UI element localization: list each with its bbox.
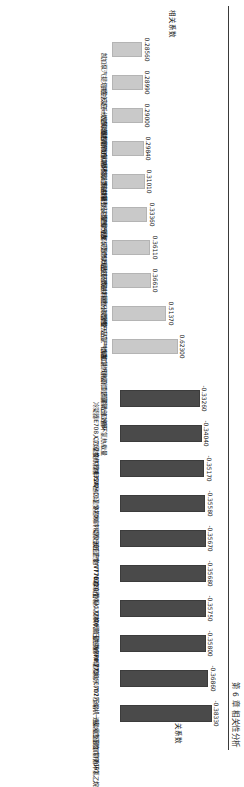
bar-value-label: -0.36860 — [210, 665, 217, 691]
bar — [112, 273, 151, 288]
bar-group: -0.35680 — [120, 565, 224, 582]
bar-value-label: -0.35750 — [207, 595, 214, 621]
bar — [112, 207, 147, 222]
header-title: 第 6 章 相关性分析 — [231, 682, 242, 748]
bar-value-label: -0.35670 — [207, 525, 214, 551]
bar-group: -0.35800 — [120, 635, 224, 652]
bar — [112, 174, 145, 189]
bar-value-label: 0.29000 — [144, 103, 151, 127]
bar — [112, 141, 144, 156]
bar — [112, 240, 150, 255]
negative-correlation-chart: 相关系数 -0.33260冷凝器E708入口温度(TT7031A)-0.3404… — [0, 376, 224, 756]
bar-group: 0.62300 — [112, 339, 224, 354]
bar-value-label: 0.36610 — [152, 268, 159, 292]
bar-group: -0.34040 — [120, 425, 224, 442]
chart-1-plot-area: -0.33260冷凝器E708入口温度(TT7031A)-0.34040C702… — [0, 376, 224, 756]
bar — [112, 42, 142, 57]
bar — [120, 705, 212, 722]
bar-value-label: -0.35580 — [207, 490, 214, 516]
bar — [120, 600, 206, 617]
bar — [120, 670, 208, 687]
bar-value-label: 0.51370 — [168, 301, 175, 325]
chart-0-plot-area: 0.28560凯加泵汽提塔顶冷凝系统空冷器后管线0.28990共生反应一次风流量… — [0, 0, 224, 376]
bar — [112, 339, 178, 354]
bar-value-label: 0.29840 — [145, 136, 152, 160]
bar — [120, 565, 206, 582]
bar — [120, 530, 206, 547]
bar-value-label: 0.28990 — [144, 70, 151, 94]
bar — [112, 306, 166, 321]
bar-group: -0.35580 — [120, 495, 224, 512]
bar-group: 0.28560 — [112, 42, 224, 57]
bar-group: 0.28990 — [112, 75, 224, 90]
bar-group: 0.36610 — [112, 273, 224, 288]
page-running-header: 第 6 章 相关性分析 — [222, 0, 242, 756]
positive-correlation-chart: 相关系数 0.28560凯加泵汽提塔顶冷凝系统空冷器后管线0.28990共生反应… — [0, 0, 224, 376]
bar-group: -0.38330 — [120, 705, 224, 722]
bar — [112, 108, 143, 123]
bar-value-label: 0.28560 — [144, 37, 151, 61]
bar-group: -0.36860 — [120, 670, 224, 687]
bar-group: -0.35670 — [120, 530, 224, 547]
bar-group: 0.33360 — [112, 207, 224, 222]
bar-group: 0.29840 — [112, 141, 224, 156]
bar-value-label: -0.34040 — [203, 420, 210, 446]
bar — [120, 635, 206, 652]
bar — [112, 75, 143, 90]
bar-group: -0.35170 — [120, 460, 224, 477]
bar — [120, 425, 202, 442]
bar-group: -0.33260 — [120, 390, 224, 407]
bar — [120, 390, 200, 407]
bar-value-label: 0.31010 — [146, 169, 153, 193]
bar — [120, 495, 205, 512]
charts-row: 相关系数 0.28560凯加泵汽提塔顶冷凝系统空冷器后管线0.28990共生反应… — [0, 0, 224, 756]
bar-value-label: -0.33260 — [201, 385, 208, 411]
bar-group: 0.29000 — [112, 108, 224, 123]
header-rule — [228, 6, 229, 750]
bar-value-label: -0.38330 — [214, 700, 221, 726]
bar-value-label: -0.35680 — [207, 560, 214, 586]
bar-value-label: -0.35170 — [206, 455, 213, 481]
bar-group: 0.51370 — [112, 306, 224, 321]
bar-group: 0.31010 — [112, 174, 224, 189]
bar-group: 0.36110 — [112, 240, 224, 255]
category-tick-label: 连续重整预加氢循环氢乙烷 — [92, 717, 101, 787]
bar-group: -0.35750 — [120, 600, 224, 617]
bar-value-label: 0.62300 — [180, 334, 187, 358]
bar-value-label: 0.33360 — [149, 202, 156, 226]
bar-value-label: 0.36110 — [152, 235, 159, 259]
bar-value-label: -0.35800 — [207, 630, 214, 656]
bar — [120, 460, 204, 477]
